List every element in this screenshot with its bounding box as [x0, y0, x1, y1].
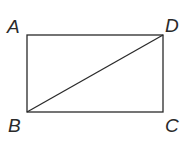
vertex-label-c: C — [165, 116, 179, 135]
vertex-label-b: B — [8, 116, 21, 135]
diagonal-bd — [27, 35, 163, 112]
vertex-label-a: A — [7, 17, 20, 36]
vertex-label-d: D — [165, 16, 179, 35]
